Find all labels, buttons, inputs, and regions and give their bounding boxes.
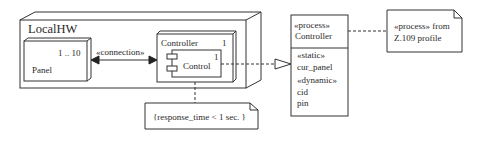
class-attr-cid: cid bbox=[297, 88, 308, 97]
class-attr-static: «static» bbox=[297, 51, 325, 60]
constraint-note-text: {response_time < 1 sec. } bbox=[153, 113, 246, 122]
panel-label: Panel bbox=[32, 66, 52, 75]
connection-stereotype: «connection» bbox=[96, 48, 145, 57]
profile-note-line1: «process» from bbox=[394, 22, 450, 31]
localhw-label: LocalHW bbox=[28, 23, 77, 36]
controller-node-label: Controller bbox=[161, 39, 198, 48]
profile-note[interactable] bbox=[387, 10, 462, 52]
panel-multiplicity: 1 .. 10 bbox=[58, 49, 81, 58]
control-component-label: Control bbox=[183, 62, 211, 71]
control-multiplicity: 1 bbox=[214, 53, 219, 62]
class-attr-dynamic: «dynamic» bbox=[297, 76, 337, 85]
class-stereotype: «process» bbox=[294, 21, 330, 30]
profile-note-line2: Z.109 profile bbox=[394, 34, 442, 43]
class-attr-pin: pin bbox=[297, 99, 309, 108]
class-attr-cur-panel: cur_panel bbox=[297, 63, 332, 72]
controller-multiplicity: 1 bbox=[222, 39, 227, 48]
class-name: Controller bbox=[295, 32, 332, 41]
